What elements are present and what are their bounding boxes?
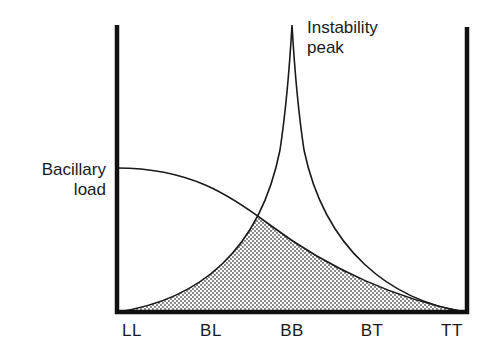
overlap-shaded-area bbox=[117, 25, 465, 312]
instability-label-line2: peak bbox=[307, 38, 378, 58]
instability-label-line1: Instability bbox=[307, 18, 378, 38]
instability-peak-label: Instability peak bbox=[307, 18, 378, 58]
tick-bt: BT bbox=[361, 321, 384, 341]
bacillary-load-label: Bacillary load bbox=[26, 160, 106, 200]
tick-ll: LL bbox=[122, 321, 142, 341]
tick-bb: BB bbox=[280, 321, 304, 341]
tick-bl: BL bbox=[200, 321, 222, 341]
bacillary-label-line2: load bbox=[26, 180, 106, 200]
bacillary-label-line1: Bacillary bbox=[26, 160, 106, 180]
tick-tt: TT bbox=[441, 321, 463, 341]
